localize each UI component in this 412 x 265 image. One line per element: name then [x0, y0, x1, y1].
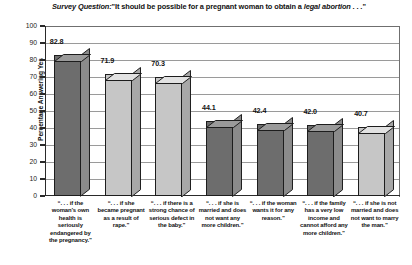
bar-value-label: 44.1 — [202, 103, 242, 112]
y-axis-tick-label: 40 — [0, 125, 37, 132]
y-axis-tick-label: 80 — [0, 57, 37, 64]
bar: 42.0 — [307, 125, 334, 196]
bar-value-label: 42.4 — [253, 106, 293, 115]
x-axis-category-label: “. . . if she became pregnant as a resul… — [97, 200, 146, 230]
y-axis-tick-label: 0 — [0, 193, 37, 200]
bar-front-face — [358, 127, 385, 196]
y-axis-tick-label: 30 — [0, 142, 37, 149]
bar: 42.4 — [257, 124, 284, 196]
x-axis-category-label: “. . . if there is a strong chance of se… — [147, 200, 196, 230]
bar-side-face — [80, 48, 90, 196]
bar-top-face — [54, 48, 91, 56]
chart-title: Survey Question:"It should be possible f… — [52, 2, 404, 11]
bar-value-label: 82.8 — [50, 37, 90, 46]
chart-title-emphasis: legal abortion . . . — [304, 2, 363, 11]
chart-title-quote-open: "It should be possible for a pregnant wo… — [112, 2, 304, 11]
bar-top-face — [257, 117, 294, 125]
bar-value-label: 70.3 — [151, 59, 191, 68]
bar: 82.8 — [54, 55, 81, 196]
bar-value-label: 71.9 — [101, 56, 141, 65]
bar-side-face — [181, 70, 191, 197]
x-axis-category-label: “. . . if the family has a very low inco… — [300, 200, 349, 237]
y-axis-tick-label: 10 — [0, 176, 37, 183]
x-axis-category-label: “. . . if the woman wants it for any rea… — [249, 200, 298, 222]
y-axis-title: Percentage Answering Yes — [37, 15, 44, 185]
chart-title-lead: Survey Question: — [52, 2, 112, 11]
x-axis-category-label: “. . . if she is married and does not wa… — [198, 200, 247, 230]
y-axis-tick-label: 70 — [0, 74, 37, 81]
bar-series: 82.871.970.344.142.442.040.7 — [45, 26, 400, 196]
y-axis-tick-label: 20 — [0, 159, 37, 166]
bar-front-face — [155, 77, 182, 197]
bar-top-face — [155, 70, 192, 78]
bar: 40.7 — [358, 127, 385, 196]
y-axis-tick-label: 60 — [0, 91, 37, 98]
bar-front-face — [105, 74, 132, 196]
y-axis-tick-label: 50 — [0, 108, 37, 115]
x-axis-category-labels: “. . . if the woman’s own health is seri… — [45, 200, 400, 263]
y-axis-tick-label: 100 — [0, 23, 37, 30]
bar-top-face — [358, 120, 395, 128]
x-axis-category-label: “. . . if she is not married and does no… — [350, 200, 399, 230]
bar-value-label: 40.7 — [354, 109, 394, 118]
bar: 70.3 — [155, 77, 182, 197]
bar-front-face — [54, 55, 81, 196]
survey-bar-chart: Survey Question:"It should be possible f… — [0, 0, 412, 265]
bar-top-face — [105, 67, 142, 75]
bar-top-face — [307, 118, 344, 126]
y-axis-tick-label: 90 — [0, 40, 37, 47]
bar-value-label: 42.0 — [303, 107, 343, 116]
x-axis-category-label: “. . . if the woman’s own health is seri… — [46, 200, 95, 244]
bar-front-face — [307, 125, 334, 196]
bar: 44.1 — [206, 121, 233, 196]
bar: 71.9 — [105, 74, 132, 196]
bar-front-face — [257, 124, 284, 196]
chart-title-quote-close: " — [363, 2, 366, 11]
bar-front-face — [206, 121, 233, 196]
bar-side-face — [131, 67, 141, 196]
bar-top-face — [206, 114, 243, 122]
